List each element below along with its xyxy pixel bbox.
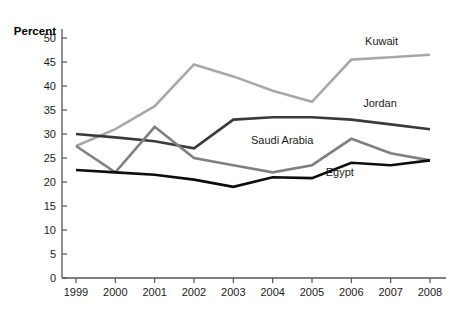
y-axis-title: Percent <box>14 25 56 37</box>
y-axis-tick-label: 15 <box>44 200 56 212</box>
y-axis-tick-label: 45 <box>44 56 56 68</box>
line-chart: 05101520253035404550Percent1999200020012… <box>0 0 462 311</box>
y-axis-tick-label: 0 <box>50 272 56 284</box>
y-axis-tick-label: 10 <box>44 224 56 236</box>
x-axis-tick-label: 2006 <box>339 286 363 298</box>
x-axis-tick-label: 2002 <box>182 286 206 298</box>
y-axis-tick-label: 20 <box>44 176 56 188</box>
x-axis-tick-label: 2004 <box>260 286 284 298</box>
y-axis-tick-label: 5 <box>50 248 56 260</box>
y-axis-tick-label: 40 <box>44 80 56 92</box>
series-label-jordan: Jordan <box>363 97 397 109</box>
x-axis-tick-label: 2005 <box>300 286 324 298</box>
x-axis-tick-label: 2007 <box>378 286 402 298</box>
x-axis-tick-label: 1999 <box>64 286 88 298</box>
series-label-egypt: Egypt <box>326 166 354 178</box>
x-axis-tick-label: 2003 <box>221 286 245 298</box>
x-axis-tick-label: 2001 <box>142 286 166 298</box>
x-axis-tick-label: 2000 <box>103 286 127 298</box>
y-axis-tick-label: 35 <box>44 104 56 116</box>
series-label-saudi-arabia: Saudi Arabia <box>251 134 314 146</box>
y-axis-tick-label: 30 <box>44 128 56 140</box>
chart-canvas: 05101520253035404550Percent1999200020012… <box>0 0 462 311</box>
series-label-kuwait: Kuwait <box>365 35 398 47</box>
x-axis-tick-label: 2008 <box>418 286 442 298</box>
y-axis-tick-label: 25 <box>44 152 56 164</box>
series-line-egypt <box>76 160 430 186</box>
